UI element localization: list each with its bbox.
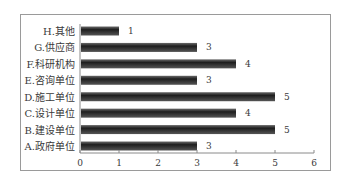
bar	[81, 43, 197, 52]
data-label: 4	[245, 59, 251, 69]
x-tick-label: 4	[233, 158, 239, 168]
bar	[81, 76, 197, 85]
data-label: 3	[206, 42, 212, 52]
category-label: A.政府单位	[24, 140, 75, 152]
x-tick-label: 2	[155, 158, 161, 168]
bar	[81, 92, 275, 101]
category-label: C.设计单位	[25, 107, 75, 119]
category-label: D.施工单位	[24, 91, 75, 103]
bar	[81, 109, 236, 118]
bar	[81, 59, 236, 68]
bar	[81, 142, 197, 151]
x-tick-label: 5	[272, 158, 278, 168]
data-label: 3	[206, 141, 212, 151]
data-label: 1	[128, 26, 134, 36]
x-tick-label: 6	[311, 158, 317, 168]
data-label: 5	[284, 125, 290, 135]
data-label: 5	[284, 92, 290, 102]
bar-chart: 0123456A.政府单位3B.建设单位5C.设计单位4D.施工单位5E.咨询单…	[0, 0, 351, 185]
category-label: H.其他	[43, 25, 75, 37]
data-label: 3	[206, 75, 212, 85]
category-label: E.咨询单位	[25, 74, 75, 86]
data-label: 4	[245, 108, 251, 118]
bar	[81, 27, 119, 36]
category-label: F.科研机构	[26, 58, 75, 70]
category-label: B.建设单位	[24, 124, 75, 136]
x-tick-label: 1	[116, 158, 122, 168]
x-tick-label: 3	[194, 158, 200, 168]
x-tick-label: 0	[77, 158, 83, 168]
bar	[81, 125, 275, 134]
category-label: G.供应商	[34, 41, 75, 53]
